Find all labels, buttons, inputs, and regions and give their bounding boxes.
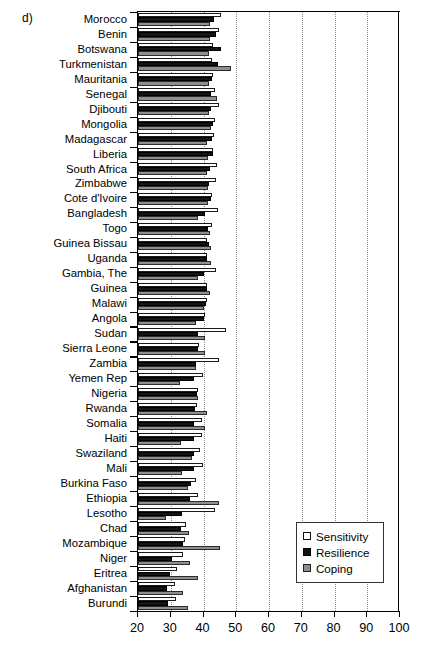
category-axis-tick (130, 312, 137, 313)
bar-group (138, 27, 400, 42)
bar-coping (138, 246, 211, 250)
bar-group (138, 416, 400, 431)
category-label: Zambia (0, 356, 131, 371)
category-axis-tick (130, 476, 137, 477)
bar-group (138, 222, 400, 237)
bar-coping (138, 261, 211, 265)
bar-group (138, 282, 400, 297)
x-axis-tick-label: 50 (228, 621, 242, 635)
bar-coping (138, 22, 210, 26)
bar-coping (138, 576, 198, 580)
bar-group (138, 312, 400, 327)
bar-coping (138, 126, 211, 130)
category-label: Guinea Bissau (0, 237, 131, 252)
x-axis-tick-label: 60 (261, 621, 275, 635)
bar-group (138, 401, 400, 416)
bar-coping (138, 426, 205, 430)
category-label: Rwanda (0, 401, 131, 416)
category-axis-tick (130, 356, 137, 357)
bar-coping (138, 81, 209, 85)
bar-coping (138, 37, 210, 41)
category-axis-tick (130, 162, 137, 163)
bar-coping (138, 51, 209, 55)
category-axis-tick (130, 461, 137, 462)
x-axis-tick-label: 70 (294, 621, 308, 635)
bar-coping (138, 456, 192, 460)
category-axis-tick (130, 27, 137, 28)
bar-coping (138, 291, 210, 295)
category-axis-tick (130, 267, 137, 268)
bar-coping (138, 201, 208, 205)
bar-group (138, 237, 400, 252)
bar-group (138, 356, 400, 371)
category-axis-tick (130, 222, 137, 223)
category-axis-tick (130, 506, 137, 507)
category-label: Niger (0, 551, 131, 566)
category-axis-tick (130, 252, 137, 253)
bar-group (138, 132, 400, 147)
category-label: Chad (0, 521, 131, 536)
bar-group (138, 371, 400, 386)
category-label: Lesotho (0, 506, 131, 521)
bar-group (138, 57, 400, 72)
category-axis-tick (130, 566, 137, 567)
x-axis-tick-label: 100 (388, 621, 409, 635)
legend-label: Coping (316, 562, 353, 575)
legend-label: Resilience (316, 546, 370, 559)
category-axis-tick (130, 207, 137, 208)
category-label: Sierra Leone (0, 341, 131, 356)
bar-group (138, 596, 400, 611)
category-axis-tick (130, 446, 137, 447)
bar-group (138, 506, 400, 521)
category-axis-labels: MoroccoBeninBotswanaTurkmenistanMauritan… (0, 12, 131, 611)
x-axis-tick-label: 40 (195, 621, 209, 635)
bar-group (138, 326, 400, 341)
category-axis-tick (130, 596, 137, 597)
bar-group (138, 72, 400, 87)
x-axis-tick (235, 611, 236, 617)
bar-group (138, 431, 400, 446)
legend-item: Resilience (303, 544, 377, 560)
bar-group (138, 12, 400, 27)
bar-coping (138, 96, 217, 100)
legend-swatch-icon (303, 564, 311, 572)
bar-coping (138, 531, 189, 535)
bar-group (138, 207, 400, 222)
bar-coping (138, 216, 198, 220)
category-label: Mali (0, 461, 131, 476)
bar-group (138, 341, 400, 356)
category-axis-tick (130, 416, 137, 417)
bar-group (138, 476, 400, 491)
category-label: Guinea (0, 281, 131, 296)
bar-coping (138, 486, 188, 490)
bar-coping (138, 111, 209, 115)
x-axis-tick (203, 611, 204, 617)
category-label: Sudan (0, 326, 131, 341)
category-label: Mauritania (0, 72, 131, 87)
bar-coping (138, 306, 204, 310)
category-axis-tick (130, 297, 137, 298)
category-label: Yemen Rep (0, 371, 131, 386)
category-label: Senegal (0, 87, 131, 102)
bar-coping (138, 321, 196, 325)
category-label: Madagascar (0, 132, 131, 147)
category-axis-tick (130, 431, 137, 432)
bar-coping (138, 381, 180, 385)
bar-group (138, 461, 400, 476)
category-axis-tick (130, 117, 137, 118)
bar-group (138, 162, 400, 177)
bar-group (138, 267, 400, 282)
legend-label: Sensitivity (316, 530, 368, 543)
x-axis-tick (334, 611, 335, 617)
category-axis-tick (130, 401, 137, 402)
bar-coping (138, 336, 205, 340)
category-label: Morocco (0, 12, 131, 27)
bar-group (138, 192, 400, 207)
legend-item: Sensitivity (303, 528, 377, 544)
bar-coping (138, 141, 207, 145)
x-axis-tick-label: 20 (130, 621, 144, 635)
x-axis-tick (399, 611, 400, 617)
category-label: Swaziland (0, 446, 131, 461)
bar-group (138, 102, 400, 117)
bar-coping (138, 471, 182, 475)
